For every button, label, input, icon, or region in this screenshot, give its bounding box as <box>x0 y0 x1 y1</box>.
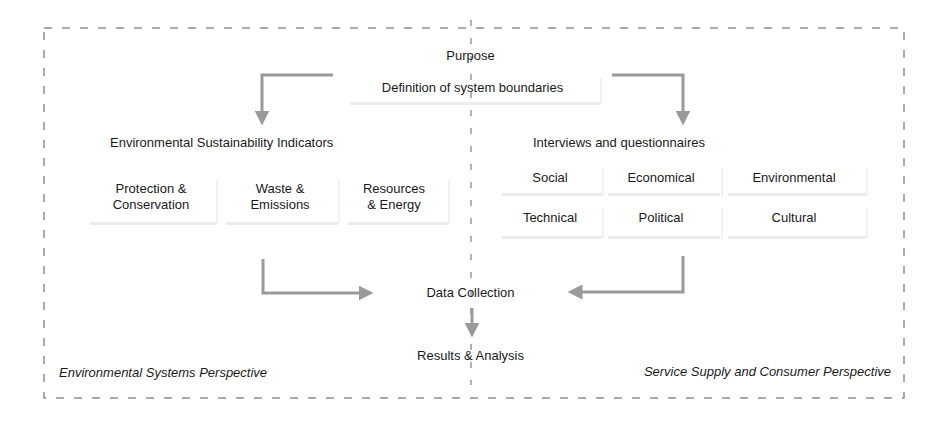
cell-separator <box>338 180 340 224</box>
service-supply-perspective-label: Service Supply and Consumer Perspective <box>644 364 891 379</box>
cell-line: Conservation <box>88 197 214 213</box>
system-boundaries-label: Definition of system boundaries <box>344 80 601 95</box>
cell-political: Political <box>606 210 716 226</box>
cell-line: & Energy <box>344 197 444 213</box>
cell-separator <box>216 180 218 224</box>
cell-shadow <box>226 222 338 225</box>
cell-line: Protection & <box>88 181 214 197</box>
env-systems-perspective-label: Environmental Systems Perspective <box>59 365 267 380</box>
env-indicators-heading: Environmental Sustainability Indicators <box>110 135 333 150</box>
cell-protection-conservation: Protection & Conservation <box>88 181 214 213</box>
cell-separator <box>866 208 868 238</box>
cell-separator <box>866 168 868 196</box>
interviews-heading: Interviews and questionnaires <box>533 135 705 150</box>
cell-line: Emissions <box>220 197 340 213</box>
cell-shadow <box>502 193 602 196</box>
cell-shadow <box>608 236 720 239</box>
definition-shadow <box>350 102 600 105</box>
cell-line: Resources <box>344 181 444 197</box>
cell-shadow <box>608 193 720 196</box>
cell-separator <box>448 180 450 224</box>
cell-separator <box>721 168 723 196</box>
cell-economical: Economical <box>606 170 716 186</box>
data-collection-label: Data Collection <box>0 285 941 300</box>
arrow-to-interviews <box>612 75 683 118</box>
arrow-to-env-indicators <box>262 75 333 118</box>
cell-line: Waste & <box>220 181 340 197</box>
cell-technical: Technical <box>500 210 600 226</box>
cell-shadow <box>728 236 866 239</box>
cell-shadow <box>502 236 602 239</box>
cell-separator <box>602 168 604 196</box>
cell-shadow <box>348 222 448 225</box>
results-analysis-label: Results & Analysis <box>0 348 941 363</box>
purpose-label: Purpose <box>0 48 941 63</box>
cell-shadow <box>728 193 866 196</box>
cell-separator <box>602 208 604 238</box>
cell-waste-emissions: Waste & Emissions <box>220 181 340 213</box>
cell-separator <box>721 208 723 238</box>
cell-social: Social <box>500 170 600 186</box>
cell-environmental: Environmental <box>730 170 858 186</box>
cell-shadow <box>90 222 216 225</box>
cell-resources-energy: Resources & Energy <box>344 181 444 213</box>
definition-shadow-edge <box>600 78 602 104</box>
cell-cultural: Cultural <box>730 210 858 226</box>
